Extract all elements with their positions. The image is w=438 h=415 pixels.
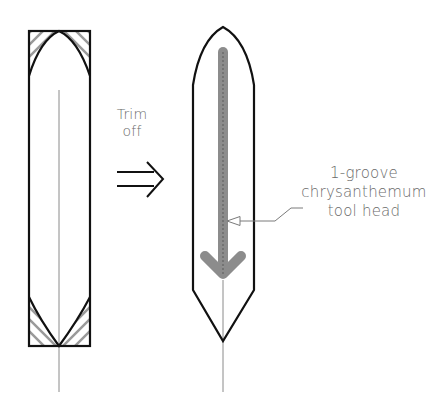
tool-path-arrow bbox=[205, 52, 241, 275]
hatch-top-right bbox=[59, 0, 99, 66]
callout-line3: tool head bbox=[290, 202, 438, 221]
diagram-canvas: Trim off 1-groove chrysanthemum tool hea… bbox=[0, 0, 438, 415]
blade-profile-top bbox=[29, 31, 90, 76]
hatch-bottom-right bbox=[59, 286, 99, 362]
trim-label-line1: Trim bbox=[102, 106, 162, 123]
trim-label-line2: off bbox=[102, 123, 162, 140]
trimmed-blade bbox=[193, 27, 254, 392]
tool-head-callout-label: 1-groove chrysanthemum tool head bbox=[290, 164, 438, 221]
double-arrow-icon bbox=[117, 162, 163, 197]
callout-line1: 1-groove bbox=[290, 164, 438, 183]
trim-off-label: Trim off bbox=[102, 106, 162, 140]
rectangular-blank bbox=[20, 0, 99, 392]
hatch-bottom-left bbox=[20, 286, 60, 362]
callout-line2: chrysanthemum bbox=[290, 183, 438, 202]
